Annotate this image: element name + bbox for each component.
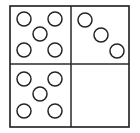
dot-circle[interactable] — [17, 12, 31, 26]
dot-circle[interactable] — [17, 104, 31, 118]
dot-circle[interactable] — [48, 72, 62, 86]
dot-circle[interactable] — [110, 44, 124, 58]
dot-circle[interactable] — [33, 27, 47, 41]
dot-grid-figure — [0, 0, 140, 133]
dot-circle[interactable] — [17, 72, 31, 86]
quadrant-cell-bottom-right — [71, 64, 129, 127]
dot-circle[interactable] — [48, 43, 62, 57]
grid-canvas — [0, 0, 140, 133]
dot-circle[interactable] — [17, 43, 31, 57]
dot-circle[interactable] — [33, 87, 47, 101]
dot-circle[interactable] — [48, 104, 62, 118]
dot-circle[interactable] — [78, 13, 92, 27]
dot-circle[interactable] — [48, 12, 62, 26]
dot-circle[interactable] — [94, 28, 108, 42]
